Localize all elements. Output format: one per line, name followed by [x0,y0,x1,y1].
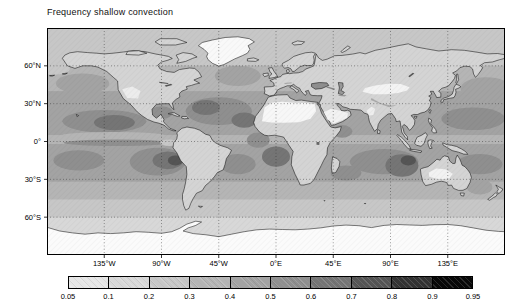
x-tick-label: 135°W [84,259,124,268]
map-content [37,28,510,255]
colorbar-tick-label: 0.3 [175,292,205,301]
x-tick-label: 90°W [142,259,182,268]
colorbar-segment [310,277,350,288]
chart-title: Frequency shallow convection [47,7,173,17]
colorbar-tick-label: 0.1 [94,292,124,301]
colorbar-tick-label: 0.05 [53,292,83,301]
colorbar [68,276,473,289]
y-tick-label: 30°N [0,99,41,108]
colorbar-tick-label: 0.9 [418,292,448,301]
colorbar-segment [108,277,148,288]
colorbar-segment [149,277,189,288]
colorbar-tick-label: 0.95 [458,292,488,301]
colorbar-tick-label: 0.6 [296,292,326,301]
colorbar-segment [391,277,431,288]
colorbar-tick-label: 0.7 [337,292,367,301]
colorbar-tick-label: 0.8 [377,292,407,301]
map-area [47,28,505,255]
colorbar-segment [270,277,310,288]
figure: Frequency shallow convection 60°N30°N0°3… [0,0,510,305]
colorbar-tick-label: 0.4 [215,292,245,301]
x-tick-label: 0°E [256,259,296,268]
hatch-texture [47,28,505,255]
colorbar-segment [189,277,229,288]
y-tick-label: 60°N [0,61,41,70]
y-tick-label: 30°S [0,175,41,184]
colorbar-segment [69,277,108,288]
x-tick-label: 90°E [371,259,411,268]
x-tick-label: 135°E [428,259,468,268]
x-tick-label: 45°W [199,259,239,268]
y-tick-label: 0° [0,137,41,146]
world-map-svg [47,28,505,255]
x-tick-label: 45°E [313,259,353,268]
colorbar-segment [432,277,472,288]
colorbar-segment [230,277,270,288]
y-tick-label: 60°S [0,213,41,222]
colorbar-tick-label: 0.2 [134,292,164,301]
colorbar-tick-label: 0.5 [256,292,286,301]
colorbar-segment [351,277,391,288]
